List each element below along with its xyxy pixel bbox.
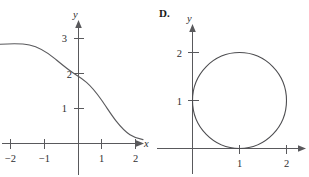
left-graph-svg: −2 −1 1 2 1 2 3 x y (0, 0, 155, 177)
figure-panel: −2 −1 1 2 1 2 3 x y D. (0, 0, 309, 177)
graph-panel-left: −2 −1 1 2 1 2 3 x y (0, 0, 155, 177)
graph-panel-right: D. 1 2 1 2 y (155, 0, 309, 177)
x-axis-arrow-icon (136, 140, 144, 147)
x-tick-label-minus2: −2 (5, 153, 16, 164)
x-tick-label-2: 2 (284, 158, 289, 169)
y-tick-label-1: 1 (177, 96, 182, 107)
y-axis-label: y (186, 13, 192, 24)
x-tick-label-minus1: −1 (39, 153, 50, 164)
x-tick-label-2: 2 (133, 153, 138, 164)
x-axis-arrow-icon (298, 145, 306, 152)
x-axis-label: x (143, 138, 149, 149)
y-axis-arrow-icon (75, 20, 82, 28)
x-tick-label-1: 1 (237, 158, 242, 169)
y-tick-label-2: 2 (177, 48, 182, 59)
circle-curve (193, 53, 287, 149)
y-axis-arrow-icon (189, 24, 196, 32)
sigmoid-curve (0, 44, 143, 140)
x-tick-label-1: 1 (99, 153, 104, 164)
y-tick-label-1: 1 (62, 103, 67, 114)
y-tick-label-3: 3 (62, 33, 67, 44)
right-graph-svg: 1 2 1 2 y (155, 0, 309, 177)
y-axis-label: y (72, 9, 78, 20)
